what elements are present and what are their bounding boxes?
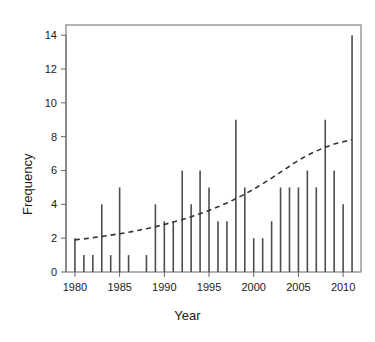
y-tick-label: 12 — [45, 63, 57, 75]
y-tick-label: 10 — [45, 97, 57, 109]
x-tick-label: 2000 — [241, 281, 265, 293]
x-tick-label: 2010 — [331, 281, 355, 293]
y-axis: 02468101214 — [45, 29, 66, 278]
x-tick-label: 1985 — [107, 281, 131, 293]
trend-line — [75, 140, 352, 240]
x-axis-title: Year — [0, 308, 375, 323]
y-tick-label: 8 — [51, 131, 57, 143]
frequency-by-year-chart: 02468101214 1980198519901995200020052010… — [0, 0, 375, 342]
y-axis-title: Frequency — [20, 154, 35, 215]
x-axis: 1980198519901995200020052010 — [63, 272, 356, 293]
x-tick-label: 1980 — [63, 281, 87, 293]
y-tick-label: 4 — [51, 198, 57, 210]
y-tick-label: 2 — [51, 232, 57, 244]
trend-line-path — [75, 140, 352, 240]
y-tick-label: 0 — [51, 266, 57, 278]
x-tick-label: 1995 — [197, 281, 221, 293]
chart-canvas: 02468101214 1980198519901995200020052010 — [0, 0, 375, 342]
y-tick-label: 14 — [45, 29, 57, 41]
y-tick-label: 6 — [51, 164, 57, 176]
x-tick-label: 1990 — [152, 281, 176, 293]
x-tick-label: 2005 — [286, 281, 310, 293]
